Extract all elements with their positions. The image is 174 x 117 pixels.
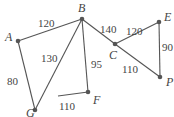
node-label: F	[92, 93, 101, 107]
node-E	[157, 20, 162, 25]
edge-F-partial	[58, 92, 88, 96]
edge-A-G	[18, 41, 35, 110]
edge-B-F	[82, 19, 88, 92]
node-label: C	[109, 48, 118, 62]
node-B	[80, 17, 85, 22]
node-label: G	[26, 106, 35, 117]
edge-weight: 130	[41, 52, 58, 64]
graph-diagram: 120801309514012090110110ABGFCEP	[0, 0, 174, 117]
node-C	[113, 42, 118, 47]
edge-E-P	[159, 22, 160, 77]
edge-weight: 120	[126, 25, 143, 37]
node-label: A	[4, 30, 13, 44]
edge-weight: 95	[91, 58, 103, 70]
node-A	[16, 39, 21, 44]
node-F	[86, 90, 91, 95]
edge-weight: 110	[59, 100, 76, 112]
graph-canvas: 120801309514012090110110ABGFCEP	[0, 0, 174, 117]
edge-weight: 120	[38, 17, 55, 29]
node-P	[158, 75, 163, 80]
edge-weight: 140	[100, 23, 117, 35]
node-label: P	[165, 75, 174, 89]
edge-weight: 80	[7, 75, 19, 87]
edge-weight: 110	[122, 63, 139, 75]
node-label: E	[163, 10, 172, 24]
node-label: B	[78, 1, 86, 15]
edge-weight: 90	[162, 41, 174, 53]
